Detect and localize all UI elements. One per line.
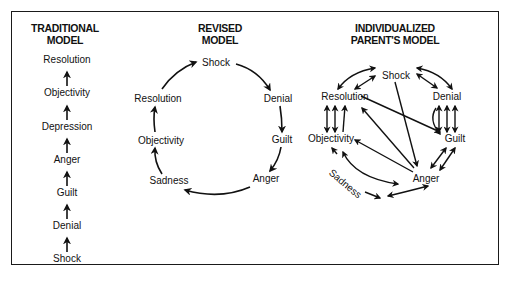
arrow-sadness-to-objectivity-icon [155,148,162,174]
arrow-bidirectional-icon [417,74,437,88]
arrow-icon [365,192,380,198]
arrow-bidirectional-icon [440,148,455,170]
arrow-icon [332,148,337,154]
arrow-bidirectional-icon [343,152,398,184]
arrow-shock-to-anger-icon [395,82,417,166]
arrow-guilt-to-anger-icon [270,147,281,171]
revised-cycle-arrows [154,62,282,194]
arrow-denial-to-guilt-icon [280,106,282,132]
arrow-objectivity-to-resolution-icon [154,107,155,132]
arrow-bidirectional-icon [355,76,375,89]
arrow-resolution-to-shock-icon [162,62,196,89]
arrow-bidirectional-icon [388,186,428,196]
diagram-arrows [0,0,510,282]
individualized-arrows [327,68,455,198]
arrow-anger-to-sadness-icon [185,187,250,194]
arrow-bidirectional-icon [338,68,375,89]
arrow-up-icon [343,106,345,132]
arrow-shock-to-denial-icon [236,64,270,90]
